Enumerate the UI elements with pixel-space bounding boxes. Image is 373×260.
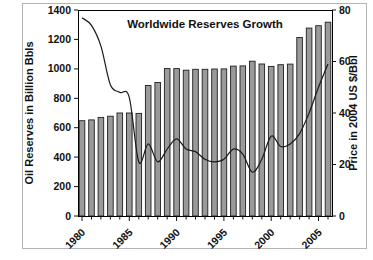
tick-label: 80 <box>339 4 351 16</box>
bar-1993 <box>202 69 208 216</box>
bar-1998 <box>250 61 256 216</box>
chart-figure: 0200400600800100012001400020406080198019… <box>0 0 373 260</box>
tick-label: 1000 <box>48 62 72 74</box>
tick-label: 0 <box>65 210 71 222</box>
bar-1986 <box>136 113 142 216</box>
tick-label: 400 <box>53 151 71 163</box>
bar-2001 <box>278 65 284 216</box>
bar-1994 <box>212 69 218 216</box>
bar-1987 <box>145 86 151 217</box>
reserves-price-chart: 0200400600800100012001400020406080198019… <box>0 0 373 260</box>
bar-1983 <box>108 116 114 216</box>
tick-label: 200 <box>53 180 71 192</box>
bar-1996 <box>231 66 237 216</box>
bar-1989 <box>164 69 170 216</box>
bar-1980 <box>79 121 85 216</box>
bar-2000 <box>268 66 274 216</box>
bar-1995 <box>221 69 227 216</box>
bar-1985 <box>127 113 133 216</box>
bar-2006 <box>325 22 331 216</box>
tick-label: 1400 <box>48 4 72 16</box>
bar-1982 <box>98 117 104 216</box>
tick-label: 1200 <box>48 33 72 45</box>
bar-1984 <box>117 113 123 216</box>
bar-1999 <box>259 64 265 216</box>
chart-title: Worldwide Reserves Growth <box>127 18 283 30</box>
bar-1981 <box>89 120 95 216</box>
bar-1991 <box>183 70 189 216</box>
bar-1988 <box>155 83 161 217</box>
tick-label: 800 <box>53 92 71 104</box>
bar-1997 <box>240 66 246 216</box>
right-axis-title: Price in 2004 US $/Bbl <box>347 55 359 171</box>
bar-2002 <box>287 64 293 216</box>
bar-2005 <box>316 26 322 216</box>
bar-2004 <box>306 28 312 216</box>
bar-2003 <box>297 38 303 217</box>
left-axis-title: Oil Reserves in Billion Bbls <box>23 41 35 184</box>
bar-1992 <box>193 69 199 216</box>
bar-1990 <box>174 69 180 216</box>
tick-label: 600 <box>53 121 71 133</box>
tick-label: 0 <box>339 210 345 222</box>
